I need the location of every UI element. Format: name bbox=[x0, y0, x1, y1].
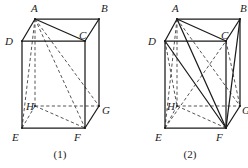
vertex-point-g bbox=[98, 105, 100, 107]
vertex-point-b bbox=[239, 18, 241, 20]
edge-AF bbox=[177, 19, 226, 128]
vertex-point-d bbox=[164, 40, 166, 42]
vertex-label-f: F bbox=[215, 131, 223, 143]
edge-AF-hidden bbox=[35, 19, 85, 128]
vertex-point-a bbox=[176, 18, 178, 20]
edge-DH-hidden bbox=[165, 41, 177, 106]
caption-figure-1: (1) bbox=[54, 148, 67, 161]
figure-1: ABCDEFGH(1) bbox=[4, 2, 110, 161]
vertex-point-h bbox=[34, 105, 36, 107]
vertex-label-g: G bbox=[242, 104, 248, 116]
vertex-label-c: C bbox=[79, 29, 87, 41]
vertex-point-e bbox=[164, 127, 166, 129]
edge-AG-hidden bbox=[35, 19, 99, 106]
vertex-label-g: G bbox=[102, 104, 110, 116]
vertex-label-b: B bbox=[240, 2, 247, 14]
vertex-label-f: F bbox=[73, 131, 81, 143]
vertex-point-b bbox=[98, 18, 100, 20]
vertex-label-a: A bbox=[30, 2, 38, 14]
vertex-label-d: D bbox=[4, 35, 13, 47]
geometry-diagram: ABCDEFGH(1)ABCDEFGH(2) bbox=[0, 0, 248, 168]
edge-CB bbox=[85, 19, 99, 41]
vertex-label-c: C bbox=[221, 29, 229, 41]
figure-canvas: ABCDEFGH(1)ABCDEFGH(2) bbox=[0, 0, 248, 168]
vertex-point-f bbox=[84, 127, 86, 129]
caption-figure-2: (2) bbox=[184, 148, 197, 161]
vertex-label-b: B bbox=[101, 2, 108, 14]
vertex-point-f bbox=[225, 127, 227, 129]
edge-HF-hidden bbox=[35, 106, 85, 128]
vertex-label-d: D bbox=[147, 35, 156, 47]
vertex-label-h: H bbox=[166, 100, 176, 112]
edge-FG bbox=[85, 106, 99, 128]
vertex-point-h bbox=[176, 105, 178, 107]
vertex-label-a: A bbox=[171, 2, 179, 14]
vertex-point-d bbox=[21, 40, 23, 42]
vertex-label-h: H bbox=[25, 100, 35, 112]
vertex-point-g bbox=[239, 105, 241, 107]
vertex-label-e: E bbox=[154, 131, 162, 143]
figure-2: ABCDEFGH(2) bbox=[147, 2, 248, 161]
vertex-label-e: E bbox=[11, 131, 19, 143]
vertex-point-a bbox=[34, 18, 36, 20]
vertex-point-e bbox=[21, 127, 23, 129]
